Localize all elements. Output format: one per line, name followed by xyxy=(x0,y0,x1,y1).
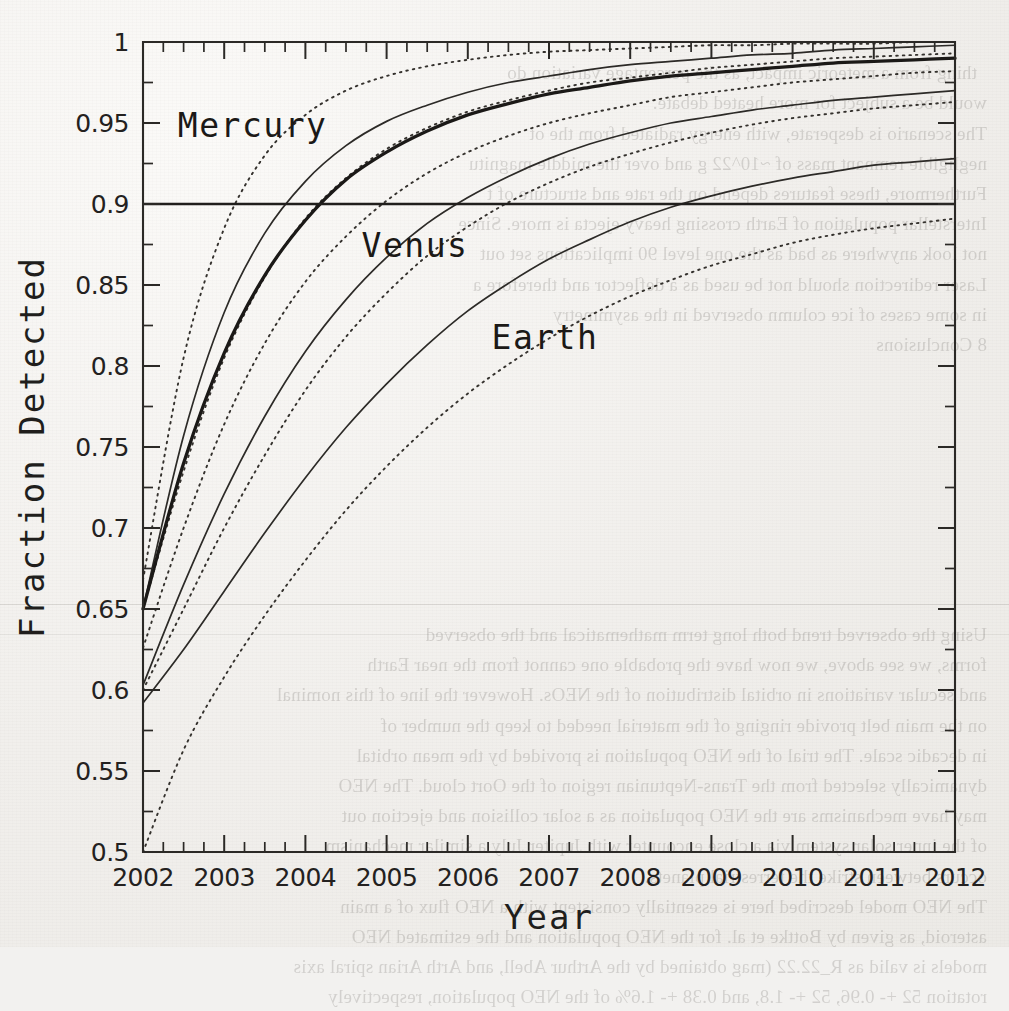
series-curve-earth-lower-bound xyxy=(143,219,955,852)
x-tick-label: 2002 xyxy=(112,863,174,892)
axis-layer xyxy=(143,42,955,852)
x-axis-title: Year xyxy=(504,897,594,937)
series-label-venus: Venus xyxy=(362,226,469,265)
x-tick-label: 2008 xyxy=(599,863,661,892)
y-tick-label: 0.6 xyxy=(91,676,129,705)
y-tick-label: 0.55 xyxy=(75,757,129,786)
y-axis-title: Fraction Detected xyxy=(12,256,52,638)
x-tick-label: 2012 xyxy=(924,863,986,892)
x-tick-label: 2006 xyxy=(437,863,499,892)
x-tick-label: 2009 xyxy=(681,863,743,892)
y-tick-label: 0.8 xyxy=(91,352,129,381)
series-curve-earth-upper-bound xyxy=(143,102,955,690)
x-tick-label: 2011 xyxy=(843,863,905,892)
tick-label-layer: 0.50.550.60.650.70.750.80.850.90.9512002… xyxy=(75,28,985,892)
x-tick-label: 2003 xyxy=(193,863,255,892)
series-curve-venus-nominal xyxy=(143,71,955,648)
series-label-mercury: Mercury xyxy=(178,106,328,145)
y-tick-label: 0.85 xyxy=(75,271,129,300)
series-curve-earth-nominal xyxy=(143,159,955,703)
y-tick-label: 0.75 xyxy=(75,433,129,462)
x-tick-label: 2005 xyxy=(356,863,418,892)
x-tick-label: 2004 xyxy=(275,863,337,892)
y-tick-label: 1 xyxy=(114,28,129,57)
x-tick-label: 2007 xyxy=(518,863,580,892)
x-tick-label: 2010 xyxy=(762,863,824,892)
curve-layer xyxy=(143,42,955,852)
plot-frame xyxy=(143,42,955,852)
series-curve-venus-lower-bound xyxy=(143,91,955,686)
y-tick-label: 0.95 xyxy=(75,109,129,138)
y-tick-label: 0.9 xyxy=(91,190,129,219)
series-label-earth: Earth xyxy=(492,318,599,357)
y-tick-label: 0.7 xyxy=(91,514,129,543)
y-tick-label: 0.65 xyxy=(75,595,129,624)
